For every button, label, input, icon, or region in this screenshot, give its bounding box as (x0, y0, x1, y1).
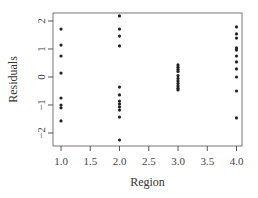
x-tick-label: 2.0 (113, 155, 127, 167)
series-region-4 (235, 25, 238, 119)
series-region-2 (118, 14, 121, 141)
data-point (118, 44, 121, 47)
data-point (59, 43, 62, 46)
data-point (118, 14, 121, 17)
data-point (235, 89, 238, 92)
data-point (235, 25, 238, 28)
data-point (118, 138, 121, 141)
data-point (59, 106, 62, 109)
x-tick-label: 1.0 (54, 155, 68, 167)
data-point (118, 102, 121, 105)
x-axis: 1.01.52.02.53.03.54.0 (54, 146, 244, 167)
data-point (235, 49, 238, 52)
data-point (235, 54, 238, 57)
data-point (176, 70, 179, 73)
y-tick-label: 0 (35, 74, 47, 80)
data-point (59, 96, 62, 99)
x-tick-label: 3.5 (200, 155, 214, 167)
data-point (59, 103, 62, 106)
data-point (118, 35, 121, 38)
data-point (118, 99, 121, 102)
y-tick-label: −1 (35, 99, 47, 111)
y-axis: −2−1012 (35, 18, 53, 139)
data-point (118, 105, 121, 108)
y-axis-title: Residuals (6, 56, 20, 103)
x-tick-label: 1.5 (83, 155, 97, 167)
series-region-3 (176, 63, 179, 91)
residuals-scatter-plot: −2−1012 1.01.52.02.53.03.54.0 Region Res… (0, 0, 258, 198)
data-point (118, 115, 121, 118)
data-point (59, 54, 62, 57)
data-point (235, 60, 238, 63)
data-point (59, 71, 62, 74)
data-point (118, 28, 121, 31)
data-point (176, 74, 179, 77)
data-point (235, 32, 238, 35)
y-tick-label: 2 (35, 18, 47, 24)
plot-box (53, 13, 242, 146)
data-point (59, 119, 62, 122)
x-axis-title: Region (130, 175, 165, 189)
x-tick-label: 4.0 (230, 155, 244, 167)
data-point (235, 36, 238, 39)
y-tick-label: −2 (35, 127, 47, 139)
data-point (235, 67, 238, 70)
data-point (176, 88, 179, 91)
data-point (118, 85, 121, 88)
data-point (59, 28, 62, 31)
data-point (235, 116, 238, 119)
data-point (118, 93, 121, 96)
data-point (118, 108, 121, 111)
y-tick-label: 1 (35, 46, 47, 52)
x-tick-label: 2.5 (142, 155, 156, 167)
data-points (59, 14, 238, 141)
series-region-1 (59, 28, 62, 123)
x-tick-label: 3.0 (171, 155, 185, 167)
data-point (235, 75, 238, 78)
